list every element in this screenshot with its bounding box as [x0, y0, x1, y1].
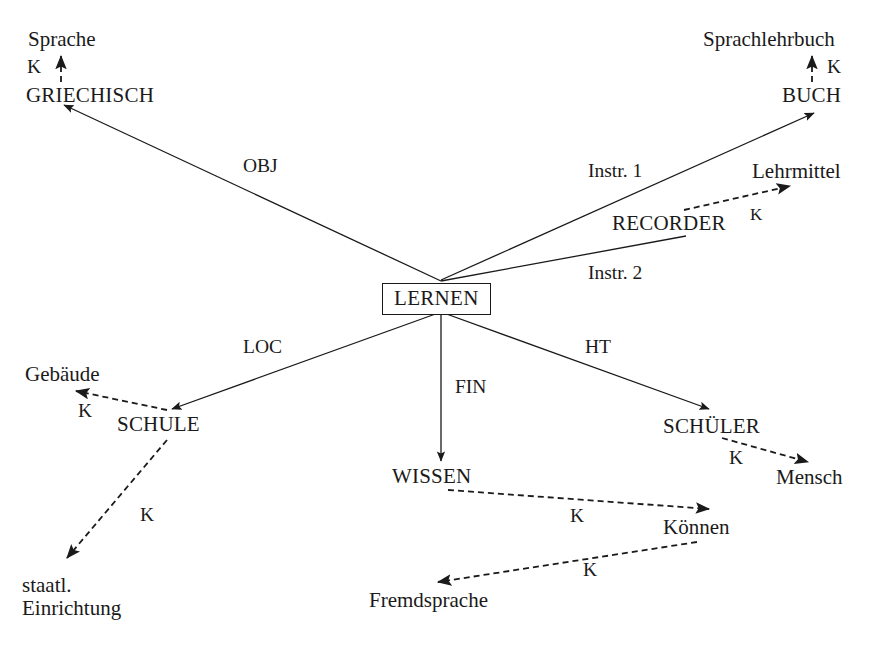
- k-label-schule-gebaeude: K: [78, 400, 92, 422]
- node-buch: BUCH: [782, 84, 841, 107]
- edge-obj: [64, 105, 441, 281]
- node-lernen: LERNEN: [382, 283, 491, 315]
- node-wissen: WISSEN: [392, 465, 471, 488]
- node-schueler: SCHÜLER: [663, 415, 760, 438]
- k-label-griechisch-sprache: K: [27, 56, 41, 78]
- node-koennen: Können: [663, 516, 730, 539]
- edge-koennen-fremdsprache: [438, 542, 697, 582]
- k-label-schueler-mensch: K: [729, 447, 743, 469]
- k-label-schule-staatl: K: [140, 504, 154, 526]
- edge-label-fin: FIN: [455, 376, 486, 398]
- node-gebaeude: Gebäude: [25, 363, 100, 386]
- edge-schule-staatl: [67, 440, 167, 558]
- edge-instr-1: [441, 113, 814, 280]
- k-label-wissen-koennen: K: [570, 505, 584, 527]
- node-schule: SCHULE: [117, 413, 200, 436]
- semantic-network-diagram: GRIECHISCHBUCHRECORDERSCHULEWISSENSCHÜLE…: [0, 0, 879, 645]
- dashed-edge-group: [61, 56, 812, 582]
- edge-instr-2: [441, 236, 686, 281]
- edge-label-instr-2: Instr. 2: [588, 262, 642, 284]
- node-sprache: Sprache: [28, 28, 96, 51]
- k-label-buch-sprachlehrbuch: K: [827, 56, 841, 78]
- edge-recorder-lehrmittel: [684, 186, 790, 210]
- k-label-koennen-fremdsprache: K: [583, 559, 597, 581]
- edge-label-ht: HT: [585, 336, 611, 358]
- edge-label-instr-1: Instr. 1: [588, 160, 642, 182]
- node-lehrmittel: Lehrmittel: [752, 160, 841, 183]
- node-staatl-einrichtung: staatl. Einrichtung: [22, 574, 121, 619]
- node-recorder: RECORDER: [612, 212, 726, 235]
- edge-label-obj: OBJ: [243, 155, 278, 177]
- node-fremdsprache: Fremdsprache: [369, 589, 488, 612]
- node-sprachlehrbuch: Sprachlehrbuch: [703, 28, 835, 51]
- node-mensch: Mensch: [776, 466, 843, 489]
- edge-loc: [172, 312, 441, 409]
- edge-label-loc: LOC: [243, 336, 282, 358]
- node-griechisch: GRIECHISCH: [26, 84, 154, 107]
- k-label-recorder-lehrmittel: K: [750, 205, 762, 225]
